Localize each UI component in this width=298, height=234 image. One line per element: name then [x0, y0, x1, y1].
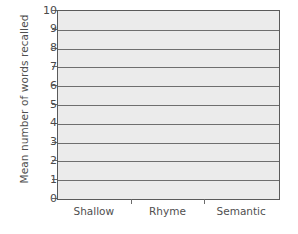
bar-chart: Mean number of words recalled 0123456789…: [0, 0, 298, 234]
x-tick-label-semantic: Semantic: [204, 204, 278, 218]
x-axis-ticks: ShallowRhymeSemantic: [0, 0, 298, 234]
x-tick-label-shallow: Shallow: [57, 204, 131, 218]
x-tick-label-rhyme: Rhyme: [131, 204, 205, 218]
